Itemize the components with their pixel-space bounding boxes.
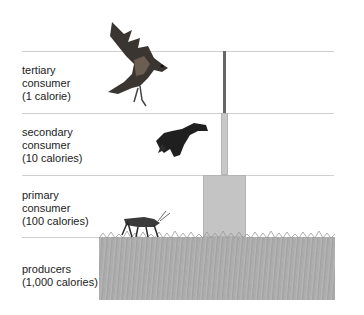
label-line: tertiary [22, 64, 71, 77]
label-line: consumer [22, 202, 89, 215]
label-line: consumer [22, 139, 83, 152]
blackbird-icon [154, 119, 210, 159]
label-line: producers [22, 263, 98, 276]
divider-tertiary-secondary [22, 113, 334, 114]
label-tertiary-consumer: tertiary consumer (1 calorie) [22, 64, 71, 103]
divider-top [22, 51, 334, 52]
hawk-icon [104, 16, 170, 108]
grasshopper-icon [118, 209, 174, 239]
label-line: secondary [22, 126, 83, 139]
label-primary-consumer: primary consumer (100 calories) [22, 189, 89, 228]
label-line: (1 calorie) [22, 90, 71, 103]
bar-secondary-consumer [221, 113, 228, 175]
label-line: (10 calories) [22, 152, 83, 165]
divider-primary-producers [22, 237, 102, 238]
bar-primary-consumer [203, 175, 246, 237]
divider-secondary-primary [22, 175, 334, 176]
label-secondary-consumer: secondary consumer (10 calories) [22, 126, 83, 165]
label-line: consumer [22, 77, 71, 90]
label-line: primary [22, 189, 89, 202]
bar-producers-grass [99, 237, 335, 300]
label-producers: producers (1,000 calories) [22, 263, 98, 289]
label-line: (1,000 calories) [22, 276, 98, 289]
bar-tertiary-consumer [223, 51, 226, 113]
label-line: (100 calories) [22, 215, 89, 228]
